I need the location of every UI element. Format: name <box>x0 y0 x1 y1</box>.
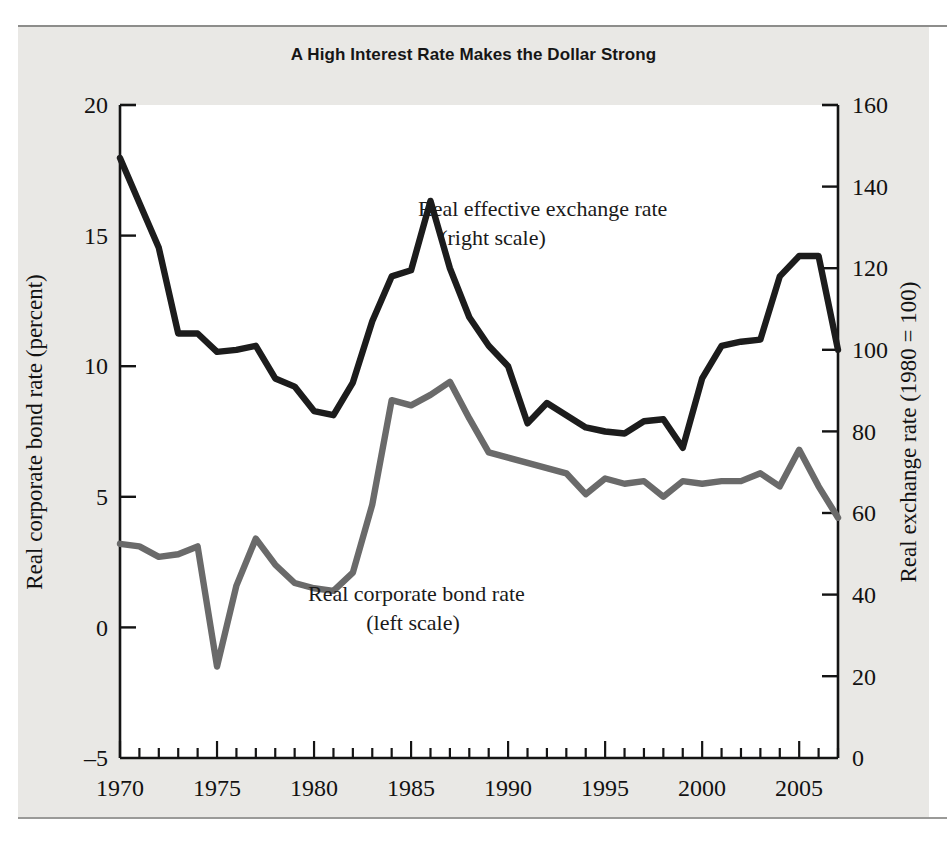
right-tick-label: 120 <box>852 255 888 281</box>
chart-svg: 20 15 10 5 0 –5 160 140 120 100 80 60 40… <box>0 0 947 862</box>
x-tick-label: 2000 <box>678 775 726 801</box>
right-tick-label: 100 <box>852 337 888 363</box>
x-tick-label: 1970 <box>96 775 144 801</box>
left-tick-label: –5 <box>83 745 108 771</box>
annotation-exchange-rate-line1: Real effective exchange rate <box>418 196 667 221</box>
right-tick-label: 40 <box>852 582 876 608</box>
left-tick-label: 15 <box>84 223 108 249</box>
annotation-bond-rate-line1: Real corporate bond rate <box>308 581 525 606</box>
x-axis-tick-labels: 1970 1975 1980 1985 1990 1995 2000 2005 <box>96 775 823 801</box>
right-tick-label: 60 <box>852 500 876 526</box>
left-tick-label: 5 <box>96 484 108 510</box>
x-tick-label: 1980 <box>290 775 338 801</box>
figure-page: A High Interest Rate Makes the Dollar St… <box>0 0 947 862</box>
right-tick-label: 160 <box>852 92 888 118</box>
x-tick-label: 1985 <box>387 775 435 801</box>
annotation-exchange-rate-line2: (right scale) <box>440 225 546 250</box>
x-tick-label: 2005 <box>775 775 823 801</box>
x-tick-label: 1975 <box>193 775 241 801</box>
chart-canvas: 20 15 10 5 0 –5 160 140 120 100 80 60 40… <box>0 0 947 862</box>
right-tick-label: 80 <box>852 419 876 445</box>
right-tick-label: 140 <box>852 174 888 200</box>
x-tick-label: 1990 <box>484 775 532 801</box>
left-tick-label: 10 <box>84 353 108 379</box>
left-tick-label: 20 <box>84 92 108 118</box>
right-axis-title: Real exchange rate (1980 = 100) <box>896 282 921 583</box>
x-tick-label: 1995 <box>581 775 629 801</box>
left-axis-tick-labels: 20 15 10 5 0 –5 <box>83 92 108 771</box>
annotation-bond-rate-line2: (left scale) <box>366 610 459 635</box>
right-tick-label: 20 <box>852 664 876 690</box>
left-tick-label: 0 <box>96 615 108 641</box>
left-axis-title: Real corporate bond rate (percent) <box>22 274 47 589</box>
right-tick-label: 0 <box>852 745 864 771</box>
right-axis-tick-labels: 160 140 120 100 80 60 40 20 0 <box>852 92 888 771</box>
